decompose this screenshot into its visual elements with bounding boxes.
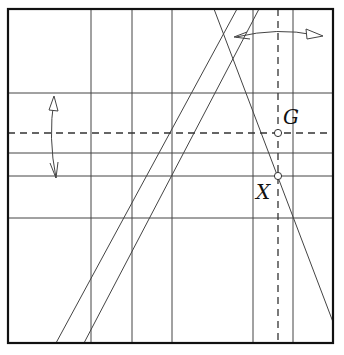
point-g-marker	[274, 129, 281, 136]
diagonal-crease	[214, 9, 333, 322]
point-x-marker	[274, 172, 281, 179]
origami-diagram: G X	[0, 0, 344, 355]
point-g-label: G	[283, 105, 299, 129]
vertical-fold-arrow	[49, 96, 58, 178]
arrow-head-hollow-icon	[49, 96, 58, 111]
arrow-head-hollow-icon	[306, 29, 323, 39]
arrow-curve	[236, 31, 315, 37]
point-x-label: X	[254, 180, 271, 204]
